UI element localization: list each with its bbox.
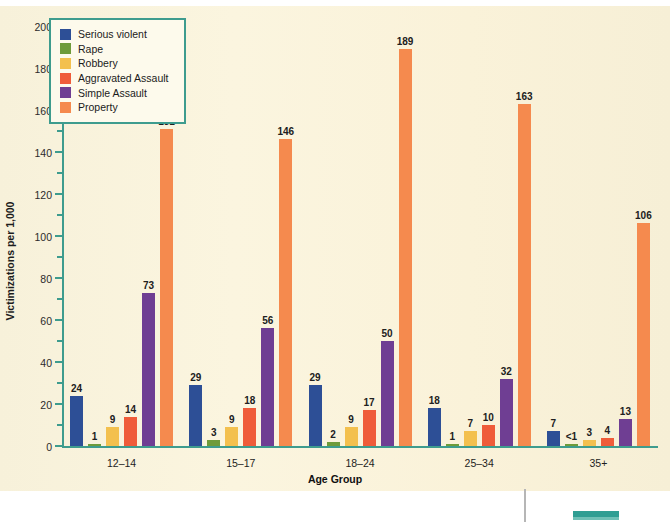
x-tick-label: 25–34 (465, 457, 494, 469)
bar-value-label: 18 (244, 395, 255, 406)
bar: 3 (583, 440, 596, 446)
bar-value-label: 13 (620, 406, 631, 417)
bar-value-label: 32 (501, 366, 512, 377)
legend-swatch (60, 43, 71, 54)
chart-page: 020406080100120140160180200 241914731511… (0, 0, 670, 522)
x-tick-label: 18–24 (345, 457, 374, 469)
bar-value-label: 163 (516, 91, 533, 102)
bar: 151 (160, 129, 173, 446)
y-tick-major (55, 193, 62, 195)
bar: 50 (381, 341, 394, 446)
bottom-white-strip (0, 491, 670, 522)
bar: 32 (500, 379, 513, 446)
legend-swatch (60, 58, 71, 69)
bar: 1 (88, 444, 101, 447)
y-tick-label: 0 (46, 441, 52, 453)
bar: 1 (446, 444, 459, 447)
y-tick-major (55, 445, 62, 447)
bar-value-label: 14 (125, 404, 136, 415)
x-tick-label: 35+ (589, 457, 607, 469)
y-tick-major (55, 403, 62, 405)
bar: 14 (124, 417, 137, 446)
bar-value-label: 7 (467, 418, 473, 429)
bar: 13 (619, 419, 632, 446)
x-tick-label: 12–14 (107, 457, 136, 469)
x-tick-label: 15–17 (226, 457, 255, 469)
bar-value-label: 3 (211, 427, 217, 438)
bar: 189 (399, 49, 412, 446)
y-tick-major (55, 361, 62, 363)
y-tick-label: 120 (34, 189, 52, 201)
bar-value-label: <1 (566, 431, 577, 442)
bar: 29 (309, 385, 322, 446)
y-tick-label: 60 (40, 315, 52, 327)
bar-value-label: 18 (429, 395, 440, 406)
legend-swatch (60, 29, 71, 40)
teal-marker-chip-shadow (573, 517, 619, 520)
bar-value-label: 1 (92, 431, 98, 442)
legend-swatch (60, 102, 71, 113)
y-tick-major (55, 319, 62, 321)
legend-label: Serious violent (78, 28, 147, 40)
legend-item: Rape (60, 42, 168, 57)
bar: 73 (142, 293, 155, 446)
legend-item: Property (60, 100, 168, 115)
bar: 4 (601, 438, 614, 446)
y-tick-label: 140 (34, 147, 52, 159)
bar-value-label: 9 (348, 414, 354, 425)
page-divider-rule (524, 489, 526, 522)
bar-group: 7<1341310635+ (547, 26, 650, 446)
bar-value-label: 4 (605, 425, 611, 436)
legend-item: Simple Assault (60, 85, 168, 100)
y-tick-label: 80 (40, 273, 52, 285)
legend: Serious violentRapeRobberyAggravated Ass… (49, 18, 186, 124)
x-axis-title: Age Group (308, 473, 362, 485)
y-tick-label: 40 (40, 357, 52, 369)
bar-value-label: 7 (551, 418, 557, 429)
y-tick-major (55, 235, 62, 237)
bar-value-label: 24 (71, 383, 82, 394)
bar-value-label: 9 (229, 414, 235, 425)
bar-value-label: 17 (363, 397, 374, 408)
bar: <1 (565, 444, 578, 447)
legend-swatch (60, 73, 71, 84)
bar: 9 (345, 427, 358, 446)
bar: 2 (327, 442, 340, 446)
legend-label: Simple Assault (78, 87, 147, 99)
legend-label: Robbery (78, 57, 118, 69)
bar: 10 (482, 425, 495, 446)
bar: 24 (70, 396, 83, 446)
bar: 9 (225, 427, 238, 446)
x-axis-line (62, 446, 658, 448)
bar-value-label: 50 (381, 328, 392, 339)
bar: 29 (189, 385, 202, 446)
bar-value-label: 56 (262, 315, 273, 326)
bar-value-label: 189 (397, 36, 414, 47)
bar: 18 (428, 408, 441, 446)
legend-label: Aggravated Assault (78, 72, 168, 84)
bar: 163 (518, 104, 531, 446)
legend-swatch (60, 87, 71, 98)
bar: 3 (207, 440, 220, 446)
bar-value-label: 29 (190, 372, 201, 383)
y-tick-label: 100 (34, 231, 52, 243)
bar-value-label: 3 (587, 427, 593, 438)
bar: 18 (243, 408, 256, 446)
bar-value-label: 29 (309, 372, 320, 383)
bar: 146 (279, 139, 292, 446)
y-tick-major (55, 277, 62, 279)
bar-value-label: 73 (143, 280, 154, 291)
bar: 56 (261, 328, 274, 446)
legend-item: Robbery (60, 56, 168, 71)
legend-item: Serious violent (60, 27, 168, 42)
bar: 7 (464, 431, 477, 446)
y-tick-major (55, 151, 62, 153)
bar: 9 (106, 427, 119, 446)
bar-value-label: 2 (330, 429, 336, 440)
bar-value-label: 10 (483, 412, 494, 423)
bar-value-label: 146 (277, 126, 294, 137)
bar-value-label: 9 (110, 414, 116, 425)
bar: 106 (637, 223, 650, 446)
y-tick-label: 20 (40, 399, 52, 411)
bar-group: 2939185614615–17 (189, 26, 292, 446)
